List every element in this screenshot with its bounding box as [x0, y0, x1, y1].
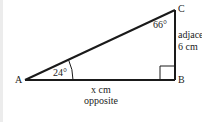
angle-label-c: 66° [153, 20, 167, 30]
side-bc-length: 6 cm [178, 42, 198, 52]
vertex-label-b: B [178, 75, 185, 85]
side-ab-length: x cm [91, 85, 111, 95]
vertex-label-c: C [178, 4, 185, 14]
angle-label-a: 24° [53, 68, 67, 78]
side-ab-role: opposite [84, 96, 118, 106]
side-bc-role: adjace [178, 30, 202, 40]
right-angle-marker [160, 66, 175, 80]
angle-arc-a [69, 60, 74, 80]
vertex-label-a: A [15, 75, 22, 85]
